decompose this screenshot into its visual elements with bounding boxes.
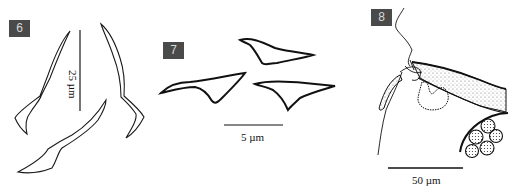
cells <box>466 119 503 158</box>
spine-right <box>101 24 144 138</box>
panel-7: 7 5 µm <box>155 0 355 189</box>
scale-label-6: 25 µm <box>67 70 79 99</box>
scale-label-8: 50 µm <box>412 174 441 186</box>
panel-8-drawing <box>360 0 516 189</box>
panel-8: 8 <box>360 0 516 189</box>
cell <box>490 130 503 143</box>
cell <box>480 141 494 155</box>
panel-7-drawing <box>155 0 355 189</box>
panel-6: 6 25 µm <box>0 0 160 189</box>
appendage <box>379 75 402 110</box>
sclerite-right <box>255 82 335 110</box>
sclerite-left <box>161 73 245 103</box>
cell <box>469 130 483 144</box>
spine-left <box>15 31 70 134</box>
sclerite-top <box>240 39 313 64</box>
duct <box>412 62 506 112</box>
panel-6-drawing <box>0 0 160 189</box>
scale-label-7: 5 µm <box>241 131 264 143</box>
cell <box>466 145 479 158</box>
filament <box>396 8 412 66</box>
